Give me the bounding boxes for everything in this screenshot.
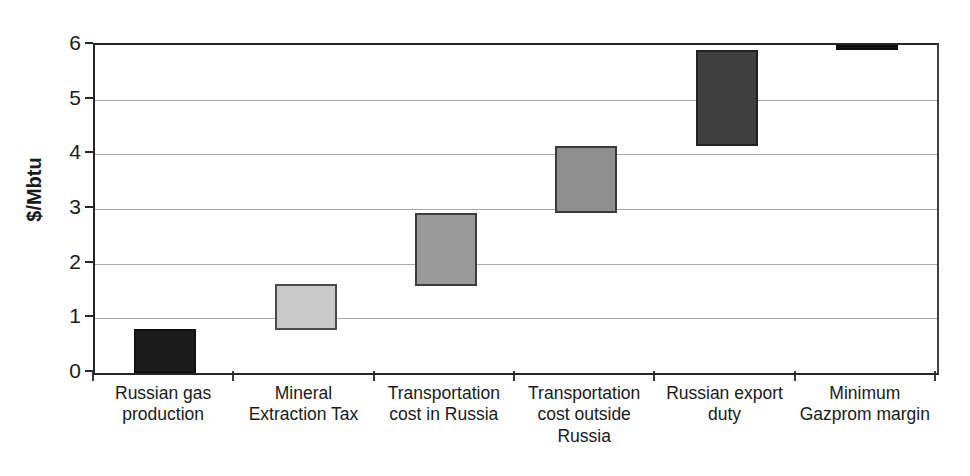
- bar-segment: [134, 329, 196, 373]
- gridline: [95, 264, 937, 265]
- bar-segment: [415, 213, 477, 285]
- y-axis-tick-label: 3: [51, 196, 81, 217]
- x-axis-category-label: Russian exportduty: [654, 383, 794, 426]
- bar-segment: [275, 284, 337, 329]
- x-axis-category-label: Russian gasproduction: [93, 383, 233, 426]
- y-axis-title: $/Mbtu: [23, 130, 46, 250]
- x-axis-category-label-line: production: [93, 404, 233, 425]
- gridline: [95, 100, 937, 101]
- x-axis-category-label: MineralExtraction Tax: [233, 383, 373, 426]
- bar-segment: [696, 50, 758, 146]
- gridline: [95, 318, 937, 319]
- y-axis-tick-label: 5: [51, 87, 81, 108]
- x-axis-category-label-line: Russia: [514, 426, 654, 447]
- x-axis-category-label-line: Minimum: [795, 383, 935, 404]
- gridline: [95, 209, 937, 210]
- y-axis-tick-mark: [85, 261, 93, 263]
- y-axis-tick-label: 0: [51, 360, 81, 381]
- x-axis-category-label: Transportationcost outsideRussia: [514, 383, 654, 447]
- bar-segment: [555, 146, 617, 213]
- x-axis-category-label-line: Mineral: [233, 383, 373, 404]
- y-axis-tick-mark: [85, 315, 93, 317]
- x-axis-category-label-line: Gazprom margin: [795, 404, 935, 425]
- x-axis-category-label-line: Russian gas: [93, 383, 233, 404]
- x-axis-category-label-line: Russian export: [654, 383, 794, 404]
- y-axis-tick-label: 2: [51, 251, 81, 272]
- x-axis-category-label-line: Transportation: [514, 383, 654, 404]
- y-axis-tick-mark: [85, 97, 93, 99]
- waterfall-chart: $/Mbtu 0123456 Russian gasproductionMine…: [0, 0, 970, 476]
- x-axis-category-label-line: Extraction Tax: [233, 404, 373, 425]
- x-axis-category-label-line: cost in Russia: [374, 404, 514, 425]
- y-axis-tick-mark: [85, 151, 93, 153]
- y-axis-tick-mark: [85, 206, 93, 208]
- bar-segment: [836, 45, 898, 50]
- y-axis-tick-label: 4: [51, 141, 81, 162]
- y-axis-tick-label: 1: [51, 305, 81, 326]
- y-axis-tick-mark: [85, 42, 93, 44]
- x-axis-category-label-line: Transportation: [374, 383, 514, 404]
- plot-area: [93, 43, 939, 375]
- x-axis-category-label-line: duty: [654, 404, 794, 425]
- x-axis-category-label: Transportationcost in Russia: [374, 383, 514, 426]
- x-axis-category-label-line: cost outside: [514, 404, 654, 425]
- x-axis-category-label: MinimumGazprom margin: [795, 383, 935, 426]
- gridline: [95, 154, 937, 155]
- y-axis-tick-label: 6: [51, 32, 81, 53]
